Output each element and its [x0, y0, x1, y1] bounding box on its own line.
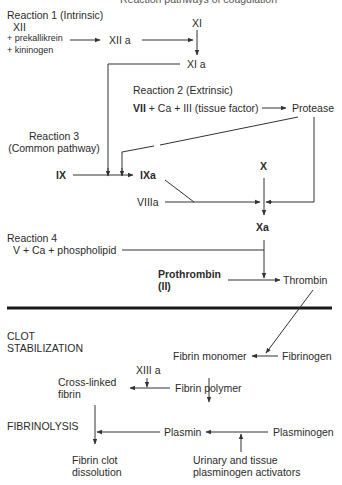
dissolution-line1: Fibrin clot	[72, 454, 118, 466]
protease: Protease	[292, 102, 334, 114]
prothrombin-ii: (II)	[158, 280, 171, 292]
activators-line1: Urinary and tissue	[193, 454, 278, 466]
thrombin: Thrombin	[283, 274, 327, 286]
factor-xa: Xa	[256, 221, 269, 233]
factor-xia: XI a	[187, 58, 206, 70]
reaction2-reactants: VII + Ca + III (tissue factor)	[133, 102, 258, 114]
reaction4-heading: Reaction 4	[7, 232, 57, 244]
kininogen: + kininogen	[7, 45, 53, 56]
arrow-thrombin-to-monomer	[266, 290, 313, 353]
plasminogen: Plasminogen	[273, 426, 334, 438]
factor-xiia: XII a	[109, 34, 131, 46]
factor-xi: XI	[192, 17, 202, 29]
prothrombin: Prothrombin	[158, 268, 221, 280]
fibrin-monomer: Fibrin monomer	[173, 350, 247, 362]
activators-line2: plasminogen activators	[193, 466, 300, 478]
reaction2-cofactors: + Ca + III (tissue factor)	[146, 102, 259, 114]
coagulation-cascade-diagram: Reaction pathways of coagulation Reactio…	[0, 0, 342, 485]
reaction1-heading: Reaction 1 (Intrinsic)	[7, 9, 103, 21]
line-xia-to-ixa	[108, 64, 180, 175]
reaction3-heading-line1: Reaction 3	[7, 130, 101, 142]
prekallikrein: + prekallikrein	[7, 33, 63, 44]
clot-stabilization-heading-line1: CLOT	[7, 330, 35, 342]
factor-viiia: VIIIa	[137, 196, 159, 208]
clot-stabilization-heading-line2: STABILIZATION	[7, 342, 83, 354]
plasmin: Plasmin	[164, 426, 201, 438]
line-protease-to-x	[270, 117, 314, 202]
dissolution-line2: dissolution	[72, 466, 122, 478]
line-protease-diag-1	[160, 117, 298, 145]
crosslinked-fibrin-line1: Cross-linked	[58, 376, 116, 388]
factor-ix: IX	[56, 169, 66, 181]
line-ixa-to-x	[165, 180, 194, 202]
fibrinolysis-heading: FIBRINOLYSIS	[7, 420, 79, 432]
cut-title: Reaction pathways of coagulation	[120, 0, 277, 5]
factor-ixa: IXa	[140, 169, 156, 181]
factor-xii: XII	[13, 21, 26, 33]
reaction2-heading: Reaction 2 (Extrinsic)	[133, 84, 233, 96]
reaction3-heading-line2: (Common pathway)	[5, 142, 103, 154]
fibrin-polymer: Fibrin polymer	[175, 382, 242, 394]
reaction4-cofactors: V + Ca + phospholipid	[13, 244, 116, 256]
factor-x: X	[260, 160, 267, 172]
factor-xiiia: XIII a	[136, 364, 161, 376]
fibrinogen: Fibrinogen	[282, 350, 332, 362]
factor-vii: VII	[133, 102, 146, 114]
crosslinked-fibrin-line2: fibrin	[58, 388, 81, 400]
